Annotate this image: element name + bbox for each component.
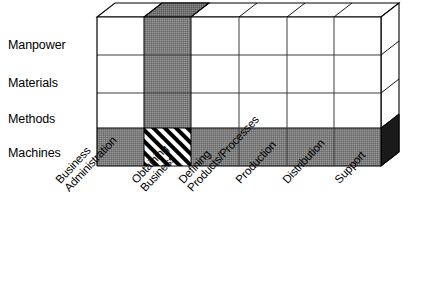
right-face [381,3,399,166]
top-face [97,3,399,17]
matrix-diagram: Manpower Materials Methods Machines [0,0,427,308]
cell-manpower-obtaining-business [144,17,191,128]
